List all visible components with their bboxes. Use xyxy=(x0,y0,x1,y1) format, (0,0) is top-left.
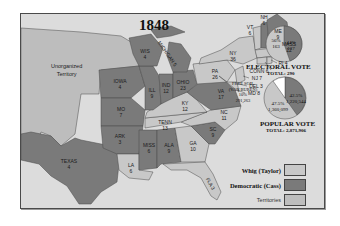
state-label-ark: ARK 3 xyxy=(115,134,125,145)
state-label-wis: WIS 4 xyxy=(140,49,149,60)
state-label-sc: SC 9 xyxy=(210,127,217,138)
legend-label-whig: Whig (Taylor) xyxy=(242,167,281,174)
state-label-tenn: TENN 13 xyxy=(158,120,172,131)
state-label-miss: MISS 6 xyxy=(143,143,155,154)
legend-swatch-democratic xyxy=(284,179,306,191)
state-label-nh: NH 6 xyxy=(260,15,267,26)
legend-swatch-whig xyxy=(284,164,306,176)
legend-swatch-territories xyxy=(284,194,306,206)
territory-label: Unorganized Territory xyxy=(51,62,82,78)
state-label-nc: NC 11 xyxy=(220,110,227,121)
legend-item-territories: Territories xyxy=(257,194,306,206)
state-label-ill: ILL 9 xyxy=(149,88,156,99)
state-new-york xyxy=(199,36,257,64)
state-label-la: LA 6 xyxy=(128,163,134,174)
popular-freesoil-label: FREE SOIL (VAN BUREN) 10% 291,263 xyxy=(229,81,258,103)
state-label-pa: PA 26 xyxy=(212,69,218,80)
state-label-ala: ALA 9 xyxy=(164,143,173,154)
popular-dem-label: 42.5% 1,220,544 xyxy=(286,93,306,104)
legend-item-whig: Whig (Taylor) xyxy=(242,164,306,176)
state-label-ohio: OHIO 23 xyxy=(177,80,190,91)
state-label-ky: KY 12 xyxy=(182,101,189,112)
electoral-whig-label: 56% 163 xyxy=(271,38,280,49)
map-frame: Unorganized Territory ME 9 NH 6 VT 6 MAS… xyxy=(20,13,325,209)
electoral-vote-total: TOTAL: 290 xyxy=(267,71,294,76)
legend-label-territories: Territories xyxy=(257,197,281,203)
map-title: 1848 xyxy=(139,17,169,34)
popular-vote-total: TOTAL: 2,871,906 xyxy=(266,128,306,133)
state-label-va: VA 17 xyxy=(218,89,224,100)
electoral-dem-label: 44% 127 xyxy=(286,40,295,51)
popular-whig-label: 47.5% 1,360,099 xyxy=(268,101,288,112)
state-label-ind: IND 12 xyxy=(162,83,171,94)
state-label-ny: NY 36 xyxy=(230,51,237,62)
popular-vote-title: POPULAR VOTE xyxy=(260,120,315,128)
state-label-vt: VT 6 xyxy=(247,25,253,36)
legend-item-democratic: Democratic (Cass) xyxy=(230,179,306,191)
state-label-mo: MO 7 xyxy=(117,107,125,118)
electoral-vote-title: ELECTORAL VOTE xyxy=(246,63,311,71)
legend-label-democratic: Democratic (Cass) xyxy=(230,182,281,189)
state-label-ga: GA 10 xyxy=(189,141,196,152)
state-label-iowa: IOWA 4 xyxy=(113,79,126,90)
state-label-texas: TEXAS 4 xyxy=(61,159,77,170)
